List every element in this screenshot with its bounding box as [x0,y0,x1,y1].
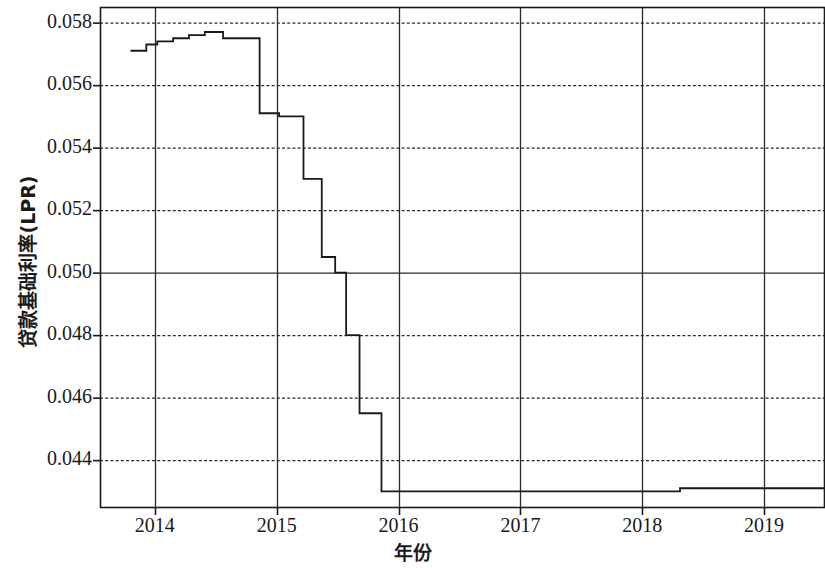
chart-plot-area [0,0,825,568]
chart-figure: 贷款基础利率(LPR) 年份 0.0440.0460.0480.0500.052… [0,0,825,568]
grid-lines [100,7,825,507]
plot-frame [101,8,825,508]
lpr-step-line [130,32,825,491]
axis-ticks [93,23,765,515]
